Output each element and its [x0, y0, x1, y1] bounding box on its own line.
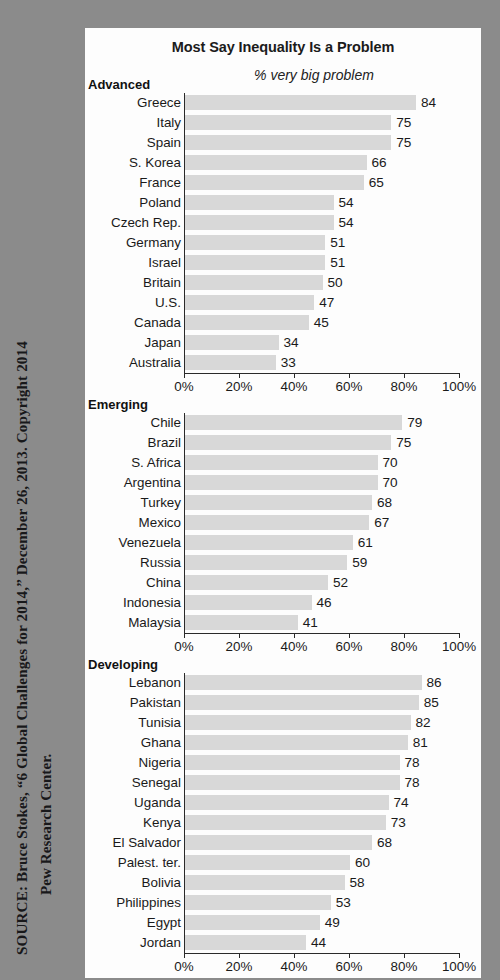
bar	[185, 815, 386, 830]
plot-area: Lebanon86Pakistan85Tunisia82Ghana81Niger…	[85, 673, 481, 953]
bar	[185, 315, 309, 330]
bar-value-label: 54	[334, 213, 354, 232]
bar-value-label: 68	[372, 833, 392, 852]
bar-row: Brazil75	[85, 433, 481, 453]
bar	[185, 615, 298, 630]
x-axis-line	[184, 953, 459, 954]
bar-row-label: Brazil	[85, 433, 181, 453]
x-axis: 0%20%40%60%80%100%	[184, 953, 481, 977]
bar-row-label: Greece	[85, 93, 181, 113]
bar-row-label: France	[85, 173, 181, 193]
bar	[185, 255, 325, 270]
bar-row: Chile79	[85, 413, 481, 433]
bar-row-label: Kenya	[85, 813, 181, 833]
bar-row-label: Egypt	[85, 913, 181, 933]
bar-row: Israel51	[85, 253, 481, 273]
bar-row-label: Bolivia	[85, 873, 181, 893]
bar-track: 84	[184, 93, 481, 113]
bar-row-label: China	[85, 573, 181, 593]
bar-track: 81	[184, 733, 481, 753]
bar-track: 75	[184, 113, 481, 133]
x-axis-tick	[349, 633, 350, 638]
bar-track: 51	[184, 233, 481, 253]
bar	[185, 875, 345, 890]
bar-track: 58	[184, 873, 481, 893]
bar-row: Egypt49	[85, 913, 481, 933]
bar-row: Spain75	[85, 133, 481, 153]
bar-value-label: 86	[422, 673, 442, 692]
bar-track: 82	[184, 713, 481, 733]
bar-row: Jordan44	[85, 933, 481, 953]
bar-row: S. Africa70	[85, 453, 481, 473]
bar-value-label: 74	[389, 793, 409, 812]
bar-value-label: 73	[386, 813, 406, 832]
bar	[185, 555, 347, 570]
x-axis-line	[184, 373, 459, 374]
bar-value-label: 81	[408, 733, 428, 752]
bar-row: Indonesia46	[85, 593, 481, 613]
bar-row: Turkey68	[85, 493, 481, 513]
bar-row-label: Nigeria	[85, 753, 181, 773]
bar-track: 78	[184, 773, 481, 793]
bar	[185, 355, 276, 370]
x-axis-tick-label: 40%	[281, 639, 308, 654]
bar	[185, 455, 378, 470]
bar-row: Poland54	[85, 193, 481, 213]
bar-row-label: Senegal	[85, 773, 181, 793]
bar-value-label: 79	[402, 413, 422, 432]
bar	[185, 835, 372, 850]
x-axis-tick	[349, 953, 350, 958]
x-axis-tick	[184, 633, 185, 638]
bar-row: Canada45	[85, 313, 481, 333]
bar-row: Germany51	[85, 233, 481, 253]
bar	[185, 195, 334, 210]
bar-value-label: 78	[400, 773, 420, 792]
bar-row: Britain50	[85, 273, 481, 293]
bar-row-label: Indonesia	[85, 593, 181, 613]
bar	[185, 855, 350, 870]
bar-row-label: Malaysia	[85, 613, 181, 633]
bar-track: 52	[184, 573, 481, 593]
x-axis-tick-label: 20%	[226, 379, 253, 394]
bar-row: El Salvador68	[85, 833, 481, 853]
bar-value-label: 45	[309, 313, 329, 332]
bar	[185, 435, 391, 450]
bar-value-label: 66	[367, 153, 387, 172]
bar-track: 74	[184, 793, 481, 813]
bar-track: 75	[184, 433, 481, 453]
chart-panel: Most Say Inequality Is a Problem % very …	[85, 28, 481, 978]
bar-row-label: Pakistan	[85, 693, 181, 713]
bar-row: S. Korea66	[85, 153, 481, 173]
bar-track: 54	[184, 213, 481, 233]
x-axis-tick	[459, 373, 460, 378]
x-axis-tick-label: 80%	[391, 379, 418, 394]
bar	[185, 515, 369, 530]
bar-value-label: 51	[325, 253, 345, 272]
bar-value-label: 70	[378, 453, 398, 472]
bar-value-label: 59	[347, 553, 367, 572]
chart-title: Most Say Inequality Is a Problem	[85, 39, 481, 55]
bar-row-label: Czech Rep.	[85, 213, 181, 233]
bar-value-label: 46	[312, 593, 332, 612]
bar	[185, 895, 331, 910]
x-axis-tick-label: 80%	[391, 959, 418, 974]
bar-value-label: 44	[306, 933, 326, 952]
bar	[185, 115, 391, 130]
bar-value-label: 58	[345, 873, 365, 892]
x-axis-tick	[404, 953, 405, 958]
bar-row-label: Japan	[85, 333, 181, 353]
bar	[185, 135, 391, 150]
bar-track: 85	[184, 693, 481, 713]
bar-row: Japan34	[85, 333, 481, 353]
bar-value-label: 85	[419, 693, 439, 712]
x-axis: 0%20%40%60%80%100%	[184, 373, 481, 397]
x-axis-line	[184, 633, 459, 634]
bar	[185, 795, 389, 810]
bar-track: 70	[184, 453, 481, 473]
bar	[185, 755, 400, 770]
bar-row: Greece84	[85, 93, 481, 113]
bar-row-label: Ghana	[85, 733, 181, 753]
bar	[185, 215, 334, 230]
plot-area: Chile79Brazil75S. Africa70Argentina70Tur…	[85, 413, 481, 633]
bar	[185, 475, 378, 490]
